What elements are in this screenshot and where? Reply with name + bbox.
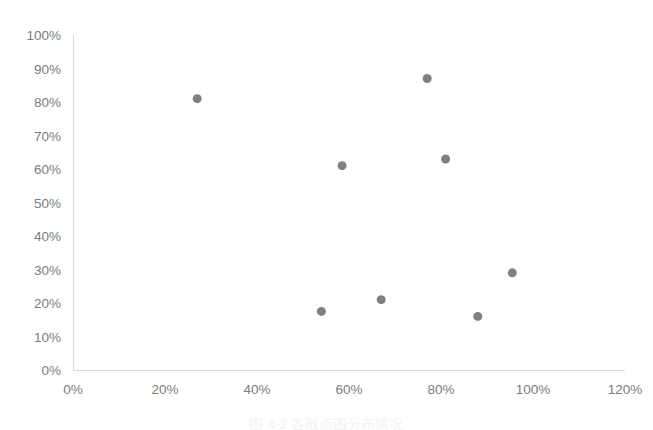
data-point [377, 295, 386, 304]
x-axis-tick-label: 60% [335, 382, 362, 397]
y-axis-tick-label: 10% [34, 330, 61, 345]
data-point [317, 307, 326, 316]
x-axis-tick-label: 120% [608, 382, 643, 397]
y-axis-tick-label: 20% [34, 296, 61, 311]
y-axis-tick-label: 80% [34, 95, 61, 110]
y-axis-tick-label: 30% [34, 263, 61, 278]
y-axis-tick-label: 90% [34, 62, 61, 77]
data-point [508, 268, 517, 277]
data-point [193, 94, 202, 103]
y-axis-tick-label: 50% [34, 196, 61, 211]
data-point-group [193, 74, 517, 321]
x-axis-tick-label: 20% [151, 382, 178, 397]
x-axis-tick-label: 0% [63, 382, 83, 397]
data-point [441, 154, 450, 163]
y-axis-tick-label: 40% [34, 229, 61, 244]
y-axis-tick-label: 100% [26, 28, 61, 43]
x-axis-tick-label: 100% [516, 382, 551, 397]
data-point [423, 74, 432, 83]
y-axis-tick-label: 60% [34, 162, 61, 177]
data-point [338, 161, 347, 170]
y-axis-tick-labels: 0%10%20%30%40%50%60%70%80%90%100% [26, 28, 61, 378]
data-point [473, 312, 482, 321]
x-axis-tick-label: 40% [243, 382, 270, 397]
figure-caption: 图 4-2 各散点图分布情况 [0, 414, 653, 430]
y-axis-tick-label: 70% [34, 129, 61, 144]
x-axis-tick-label: 80% [427, 382, 454, 397]
y-axis-tick-label: 0% [41, 363, 61, 378]
x-axis-tick-labels: 0%20%40%60%80%100%120% [63, 382, 642, 397]
scatter-chart-figure: 0%10%20%30%40%50%60%70%80%90%100% 0%20%4… [0, 0, 653, 430]
plot-area: 0%10%20%30%40%50%60%70%80%90%100% 0%20%4… [0, 0, 653, 430]
